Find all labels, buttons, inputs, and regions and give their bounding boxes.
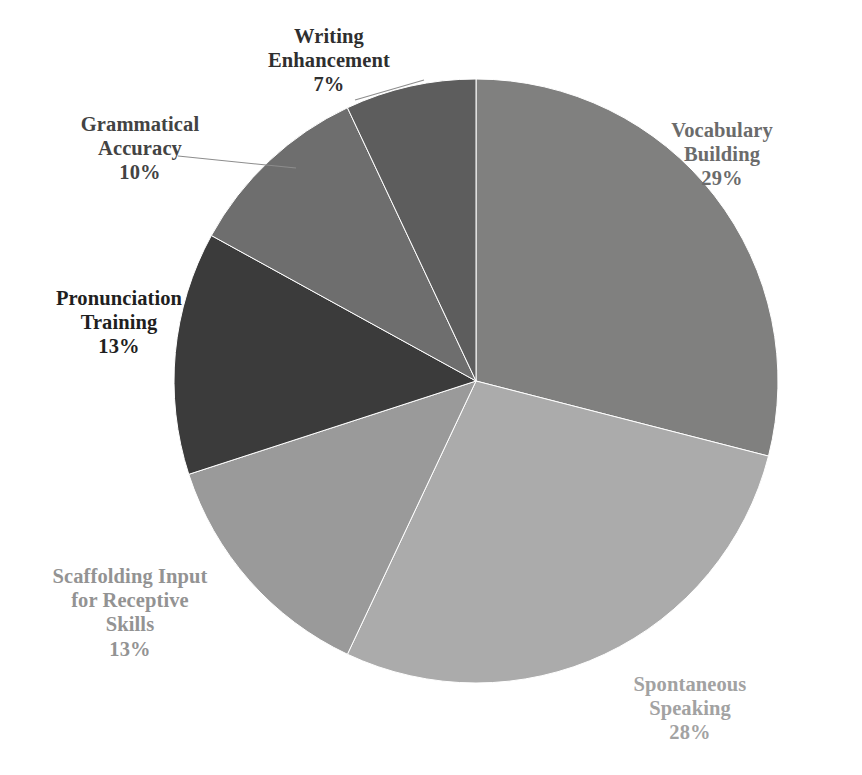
pie-label-writing-enhancement: Writing Enhancement 7% — [214, 24, 444, 97]
pie-label-writing-enhancement-line1: Writing — [214, 24, 444, 48]
pie-label-scaffolding-input-line3: Skills — [14, 612, 246, 636]
pie-label-grammatical-accuracy-percent: 10% — [20, 160, 260, 184]
pie-label-spontaneous-speaking-line2: Speaking — [590, 696, 790, 720]
pie-chart: Writing Enhancement 7% Grammatical Accur… — [0, 0, 862, 775]
pie-label-spontaneous-speaking-line1: Spontaneous — [590, 672, 790, 696]
pie-label-pronunciation-training-line2: Training — [8, 310, 230, 334]
pie-label-spontaneous-speaking-percent: 28% — [590, 720, 790, 744]
pie-label-spontaneous-speaking: Spontaneous Speaking 28% — [590, 672, 790, 745]
pie-label-scaffolding-input: Scaffolding Input for Receptive Skills 1… — [14, 564, 246, 661]
pie-label-vocabulary-building-line1: Vocabulary — [616, 118, 828, 142]
pie-label-pronunciation-training: Pronunciation Training 13% — [8, 286, 230, 359]
pie-label-pronunciation-training-line1: Pronunciation — [8, 286, 230, 310]
pie-label-writing-enhancement-percent: 7% — [214, 72, 444, 96]
pie-label-scaffolding-input-percent: 13% — [14, 637, 246, 661]
pie-label-vocabulary-building-percent: 29% — [616, 166, 828, 190]
pie-label-writing-enhancement-line2: Enhancement — [214, 48, 444, 72]
pie-label-pronunciation-training-percent: 13% — [8, 334, 230, 358]
pie-label-grammatical-accuracy: Grammatical Accuracy 10% — [20, 112, 260, 185]
pie-label-vocabulary-building-line2: Building — [616, 142, 828, 166]
pie-label-grammatical-accuracy-line1: Grammatical — [20, 112, 260, 136]
pie-label-vocabulary-building: Vocabulary Building 29% — [616, 118, 828, 191]
pie-label-grammatical-accuracy-line2: Accuracy — [20, 136, 260, 160]
pie-label-scaffolding-input-line1: Scaffolding Input — [14, 564, 246, 588]
pie-label-scaffolding-input-line2: for Receptive — [14, 588, 246, 612]
